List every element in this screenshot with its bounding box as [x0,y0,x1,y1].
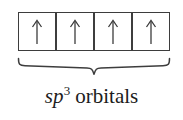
up-arrow-icon [30,19,43,45]
orbital-box-row: ↑ ↑ ↑ ↑ [18,12,170,51]
caption-word: orbitals [75,84,138,108]
orbital-box: ↑ [18,12,56,51]
caption-symbol: sp [45,84,64,108]
orbital-box: ↑ [56,12,94,51]
orbital-box: ↑ [132,12,170,51]
caption-superscript: 3 [64,83,71,98]
curly-brace-icon [16,56,172,78]
up-arrow-icon [107,19,120,45]
up-arrow-icon [68,19,81,45]
orbital-box: ↑ [94,12,132,51]
sp3-orbital-diagram: ↑ ↑ ↑ ↑ sp3orbital [0,0,183,120]
up-arrow-icon [145,19,158,45]
caption: sp3orbitals [0,83,183,109]
